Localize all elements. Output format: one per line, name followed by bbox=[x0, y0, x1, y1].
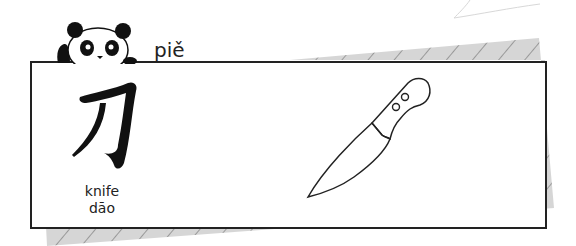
meaning-text: knife bbox=[62, 183, 142, 200]
pinyin-text: dāo bbox=[62, 200, 142, 217]
flashcard: knife dāo bbox=[30, 61, 547, 229]
knife-icon bbox=[304, 77, 434, 202]
sound-label: piě bbox=[154, 40, 185, 60]
panda-icon bbox=[52, 20, 142, 64]
hanzi-glyph bbox=[68, 81, 148, 171]
